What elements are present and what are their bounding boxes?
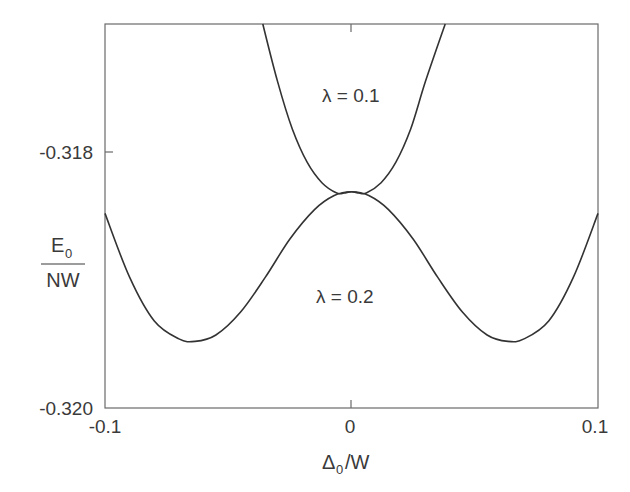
xtick-label-neg: -0.1 xyxy=(89,416,122,437)
xlabel-tail: /W xyxy=(345,451,370,473)
chart: -0.318 -0.320 -0.1 0 0.1 E 0 NW Δ 0 /W λ… xyxy=(0,0,630,492)
xlabel-sub: 0 xyxy=(336,462,343,477)
annotation-lambda-0-1: λ = 0.1 xyxy=(322,85,380,106)
ytick-label-320: -0.320 xyxy=(39,398,93,419)
xlabel-delta: Δ xyxy=(322,451,335,473)
curve-lambda-0-2 xyxy=(105,192,598,342)
xtick-label-pos: 0.1 xyxy=(582,416,608,437)
ylabel-numerator: E xyxy=(51,234,64,256)
plot-frame xyxy=(105,24,598,408)
ylabel-denominator: NW xyxy=(46,269,79,291)
ylabel-numerator-sub: 0 xyxy=(65,246,72,261)
xtick-label-zero: 0 xyxy=(345,416,356,437)
annotation-lambda-0-2: λ = 0.2 xyxy=(316,286,374,307)
ytick-label-318: -0.318 xyxy=(39,142,93,163)
curve-lambda-0-1 xyxy=(263,24,445,194)
